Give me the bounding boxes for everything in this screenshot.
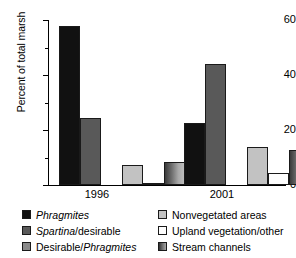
legend-item[interactable]: Nonvegetated areas <box>158 207 296 222</box>
bars-layer <box>49 20 286 185</box>
x-group-label-1996: 1996 <box>67 188 127 200</box>
legend-swatch <box>22 226 31 235</box>
legend-item[interactable]: Desirable/Phragmites <box>22 239 162 254</box>
bar-chart: Percent of total marsh 60 40 20 0 1996 2… <box>0 0 296 258</box>
bar <box>143 183 164 185</box>
y-tick-60 <box>43 20 48 21</box>
bar <box>184 123 205 185</box>
legend-label: Stream channels <box>172 241 251 253</box>
y-tick-40 <box>43 75 48 76</box>
legend-label: Spartina/desirable <box>36 225 121 237</box>
bar <box>247 147 268 185</box>
legend-label: Desirable/Phragmites <box>36 241 136 253</box>
legend-swatch <box>22 242 31 251</box>
x-group-label-2001: 2001 <box>192 188 252 200</box>
bar <box>289 150 296 185</box>
y-tick-minor-10 <box>45 158 48 159</box>
legend-item[interactable]: Stream channels <box>158 239 296 254</box>
plot-area: Percent of total marsh 60 40 20 0 1996 2… <box>0 0 296 196</box>
legend-label: Phragmites <box>36 209 89 221</box>
legend: PhragmitesSpartina/desirableDesirable/Ph… <box>22 207 292 257</box>
bar <box>205 64 226 185</box>
bar <box>268 173 289 185</box>
y-axis-label: Percent of total marsh <box>15 0 27 127</box>
legend-label: Upland vegetation/other <box>172 225 284 237</box>
y-tick-0 <box>43 185 48 186</box>
y-tick-20 <box>43 130 48 131</box>
bar <box>80 118 101 185</box>
legend-item[interactable]: Phragmites <box>22 207 162 222</box>
legend-column-right: Nonvegetated areasUpland vegetation/othe… <box>158 207 296 255</box>
y-tick-minor-30 <box>45 103 48 104</box>
legend-item[interactable]: Spartina/desirable <box>22 223 162 238</box>
legend-item[interactable]: Upland vegetation/other <box>158 223 296 238</box>
x-axis-line <box>48 185 286 186</box>
legend-label: Nonvegetated areas <box>172 209 267 221</box>
y-tick-minor-50 <box>45 48 48 49</box>
legend-swatch <box>158 242 167 251</box>
legend-swatch <box>22 210 31 219</box>
bar <box>122 165 143 185</box>
bar <box>164 162 185 185</box>
legend-swatch <box>158 210 167 219</box>
legend-column-left: PhragmitesSpartina/desirableDesirable/Ph… <box>22 207 162 255</box>
bar <box>59 26 80 185</box>
legend-swatch <box>158 226 167 235</box>
